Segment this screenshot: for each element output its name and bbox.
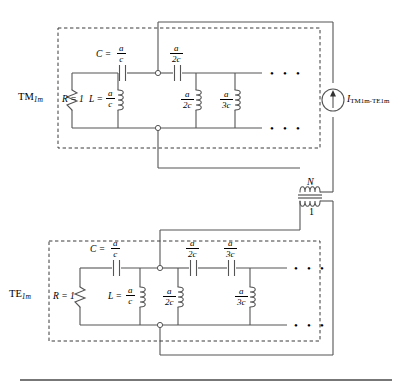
current-source-label: ITM1m-TE1m [347, 94, 389, 105]
te-capacitor-C-lead: C = [90, 244, 105, 254]
tm-bottom-continuation-dots: • • • [270, 123, 303, 134]
tm-capacitor-a2c-value: a 2c [170, 44, 183, 65]
te-capacitor-C-symbol [114, 260, 120, 276]
circuit-figure: .w { stroke: #555; stroke-width: 1.1; fi… [0, 0, 415, 389]
tm-capacitor-C-lead: C = [96, 49, 111, 59]
transformer-primary-turns-label: N [307, 176, 314, 187]
transformer-secondary-turns-label: 1 [309, 206, 314, 217]
schematic-canvas: .w { stroke: #555; stroke-width: 1.1; fi… [0, 0, 415, 389]
tm-inductor-L-lead: L = [89, 94, 103, 104]
te-outer-loop-wire [160, 201, 333, 355]
current-source-symbol [322, 89, 344, 111]
tm-capacitor-C-symbol [120, 65, 126, 81]
te-top-continuation-dots: • • • [294, 263, 327, 274]
tm-mode-label: TM1m [18, 92, 43, 103]
te-inductor-L-lead: L = [108, 291, 122, 301]
te-inductor-a2c-value: a 2c [163, 287, 176, 308]
tm-capacitor-C-value: a c [117, 44, 126, 65]
tm-top-continuation-dots: • • • [270, 68, 303, 79]
te-inductor-a3c-symbol [250, 287, 255, 307]
te-capacitor-a2c-symbol [191, 260, 197, 276]
tm-inductor-a3c-symbol [235, 90, 240, 110]
te-resistor-symbol [75, 287, 85, 307]
te-mode-label: TE1m [9, 289, 31, 300]
tm-inductor-a2c-value: a 2c [181, 90, 194, 111]
te-inductor-L-symbol [140, 287, 145, 307]
tm-bottom-node [155, 125, 160, 130]
te-inductor-a3c-value: a 3c [235, 287, 248, 308]
tm-top-node [155, 70, 160, 75]
te-block-boundary [49, 241, 320, 341]
te-inductor-L-value: a c [126, 286, 135, 307]
tm-capacitor-a2c-symbol [175, 65, 181, 81]
tm-resistor-label: R = 1 [62, 94, 84, 104]
te-resistor-label: R = 1 [53, 291, 75, 301]
te-capacitor-a3c-value: a 3c [224, 239, 237, 260]
te-top-node [157, 265, 162, 270]
te-capacitor-a2c-value: a 2c [186, 239, 199, 260]
tm-inductor-L-symbol [118, 90, 123, 110]
te-bottom-continuation-dots: • • • [294, 320, 327, 331]
te-capacitor-a3c-symbol [229, 260, 235, 276]
te-capacitor-C-value: a c [111, 239, 120, 260]
tm-inductor-L-value: a c [106, 89, 115, 110]
tm-inductor-a2c-symbol [196, 90, 201, 110]
tm-inductor-a3c-value: a 3c [220, 90, 233, 111]
te-bottom-node [157, 322, 162, 327]
te-inductor-a2c-symbol [178, 287, 183, 307]
